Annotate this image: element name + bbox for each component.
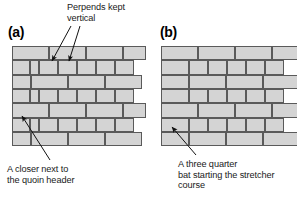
brick-a-c6-b3 — [105, 132, 142, 146]
brick-a-c4-b1 — [49, 103, 86, 117]
brick-a-c1-b4 — [77, 60, 96, 74]
brick-b-c6-b1 — [189, 132, 226, 146]
brick-a-c4-b0 — [12, 103, 49, 117]
panel-label-b: (b) — [160, 24, 177, 40]
brick-b-c2-b1 — [189, 75, 226, 89]
panel-label-a: (a) — [8, 24, 24, 40]
brick-b-c5-b1 — [189, 118, 208, 132]
brick-b-c2-b0 — [161, 75, 189, 89]
brick-a-c6-b1 — [31, 132, 68, 146]
brick-b-c4-b0 — [161, 103, 198, 117]
brick-b-c4-b1 — [198, 103, 235, 117]
brick-b-c3-b3 — [227, 89, 246, 103]
brick-wall-panel-a — [12, 46, 130, 132]
brick-b-c1-b4 — [246, 60, 265, 74]
brick-b-c5-b4 — [246, 118, 265, 132]
figure-root: (a) (b) Perpends kept vertical A closer … — [0, 0, 297, 199]
brick-a-c3-b0 — [12, 89, 30, 103]
brick-b-c5-b5 — [265, 118, 284, 132]
brick-b-c4-b3 — [272, 103, 297, 117]
brick-a-c1-b2 — [39, 60, 58, 74]
brick-b-c5-b0 — [161, 118, 189, 132]
annotation-perpends-kept-vertical: Perpends kept vertical — [67, 2, 125, 23]
brick-a-c5-b4 — [77, 118, 96, 132]
brick-a-c1-b0 — [12, 60, 30, 74]
brick-a-c2-b1 — [31, 75, 68, 89]
brick-a-c5-b2 — [39, 118, 58, 132]
brick-a-c2-b2 — [68, 75, 105, 89]
brick-wall-panel-b — [161, 46, 285, 132]
brick-a-c3-b1 — [30, 89, 39, 103]
brick-b-c4-b2 — [235, 103, 272, 117]
brick-b-c6-b2 — [226, 132, 263, 146]
brick-a-c5-b1 — [30, 118, 39, 132]
brick-b-c3-b1 — [189, 89, 208, 103]
brick-a-c0-b1 — [49, 46, 86, 60]
brick-b-c0-b0 — [161, 46, 198, 60]
brick-a-c5-b6 — [115, 118, 134, 132]
brick-a-c5-b5 — [96, 118, 115, 132]
brick-b-c6-b0 — [161, 132, 189, 146]
brick-a-c5-b0 — [12, 118, 30, 132]
brick-b-c3-b0 — [161, 89, 189, 103]
brick-b-c2-b2 — [226, 75, 263, 89]
annotation-closer-next-to-quoin-header: A closer next to the quoin header — [7, 164, 74, 185]
brick-a-c2-b3 — [105, 75, 142, 89]
brick-a-c0-b3 — [123, 46, 146, 60]
brick-b-c0-b3 — [272, 46, 297, 60]
brick-a-c1-b5 — [96, 60, 115, 74]
brick-b-c1-b1 — [189, 60, 208, 74]
brick-b-c5-b2 — [208, 118, 227, 132]
brick-a-c4-b3 — [123, 103, 146, 117]
brick-a-c4-b2 — [86, 103, 123, 117]
brick-a-c0-b0 — [12, 46, 49, 60]
brick-a-c3-b4 — [77, 89, 96, 103]
brick-a-c1-b3 — [58, 60, 77, 74]
brick-b-c6-b3 — [263, 132, 297, 146]
brick-b-c1-b0 — [161, 60, 189, 74]
brick-a-c6-b0 — [12, 132, 31, 146]
brick-b-c5-b3 — [227, 118, 246, 132]
brick-b-c1-b3 — [227, 60, 246, 74]
brick-b-c3-b4 — [246, 89, 265, 103]
annotation-three-quarter-bat: A three quarter bat starting the stretch… — [178, 159, 274, 191]
brick-a-c0-b2 — [86, 46, 123, 60]
brick-b-c0-b2 — [235, 46, 272, 60]
brick-b-c0-b1 — [198, 46, 235, 60]
brick-b-c2-b3 — [263, 75, 297, 89]
brick-b-c3-b2 — [208, 89, 227, 103]
brick-a-c1-b6 — [115, 60, 134, 74]
brick-b-c1-b2 — [208, 60, 227, 74]
brick-a-c3-b3 — [58, 89, 77, 103]
brick-a-c3-b6 — [115, 89, 134, 103]
brick-b-c1-b5 — [265, 60, 284, 74]
brick-a-c6-b2 — [68, 132, 105, 146]
brick-a-c1-b1 — [30, 60, 39, 74]
brick-a-c3-b2 — [39, 89, 58, 103]
brick-a-c5-b3 — [58, 118, 77, 132]
brick-a-c3-b5 — [96, 89, 115, 103]
brick-b-c3-b5 — [265, 89, 284, 103]
brick-a-c2-b0 — [12, 75, 31, 89]
